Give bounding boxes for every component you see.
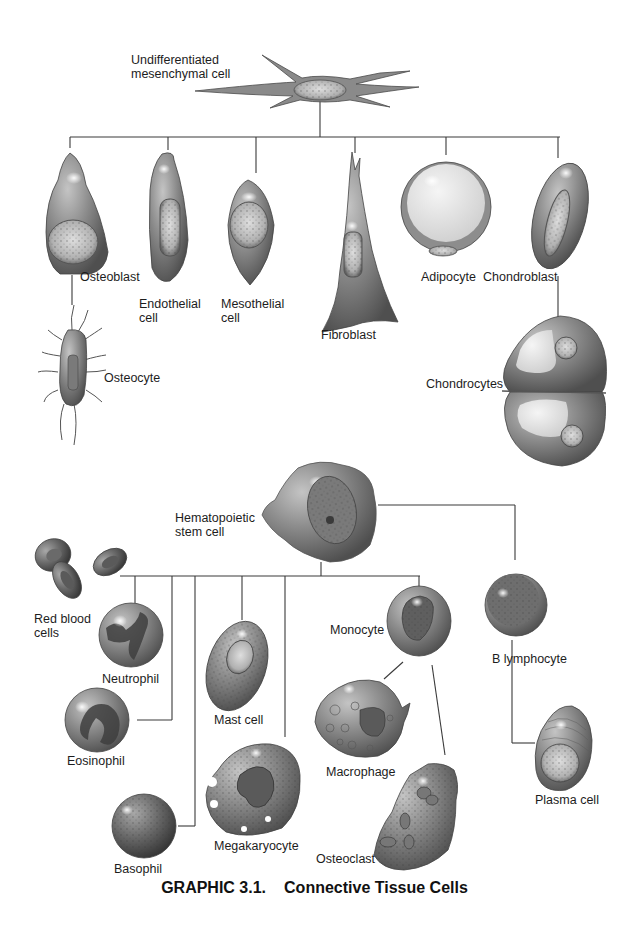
chondroblast-icon [522,157,599,274]
label-fibroblast: Fibroblast [321,328,376,342]
basophil-icon [112,794,176,858]
plasma-cell-icon [535,706,592,791]
label-macrophage: Macrophage [326,765,396,779]
caption-number: GRAPHIC 3.1. [161,879,266,896]
monocyte-icon [387,586,451,656]
b-lymphocyte-icon [485,574,547,636]
label-megakaryocyte: Megakaryocyte [214,839,299,853]
label-mesothelial-line2: cell [221,311,240,325]
label-mesothelial-line1: Mesothelial [221,297,284,311]
label-mast-cell: Mast cell [214,713,263,727]
osteocyte-icon [38,305,106,445]
label-osteoclast: Osteoclast [316,852,375,866]
mesothelial-cell-icon [228,180,274,285]
figure-caption: GRAPHIC 3.1.Connective Tissue Cells [0,879,629,897]
red-blood-cells-icon [31,534,132,604]
label-red-blood-cells: Red bloodcells [34,612,91,640]
label-mesenchymal-line2: mesenchymal cell [131,67,230,81]
label-hematopoietic-line2: stem cell [175,525,224,539]
connective-tissue-cells-diagram: Undifferentiatedmesenchymal cell Osteobl… [0,0,629,931]
label-rbc-line2: cells [34,626,59,640]
label-endothelial-cell: Endothelialcell [139,297,201,325]
osteoclast-icon [374,764,458,870]
megakaryocyte-icon [206,744,300,835]
label-osteoblast: Osteoblast [80,270,140,284]
mast-cell-icon [195,613,279,718]
label-chondrocytes: Chondrocytes [426,377,503,391]
label-basophil: Basophil [114,862,162,876]
neutrophil-icon [99,603,163,667]
label-chondroblast: Chondroblast [483,270,557,284]
label-endothelial-line1: Endothelial [139,297,201,311]
label-mesenchymal-line1: Undifferentiated [131,53,219,67]
macrophage-icon [315,680,410,757]
hematopoietic-stem-cell-icon [262,462,376,562]
eosinophil-icon [65,688,129,752]
label-hematopoietic-line1: Hematopoietic [175,511,255,525]
label-endothelial-line2: cell [139,311,158,325]
chondrocytes-icon [502,316,607,466]
osteoblast-icon [46,153,108,274]
label-mesothelial-cell: Mesothelialcell [221,297,284,325]
label-eosinophil: Eosinophil [67,754,125,768]
label-neutrophil: Neutrophil [102,672,159,686]
label-plasma-cell: Plasma cell [535,793,599,807]
adipocyte-icon [401,162,491,256]
label-mesenchymal-cell: Undifferentiatedmesenchymal cell [131,53,230,81]
label-hematopoietic-stem-cell: Hematopoieticstem cell [175,511,255,539]
label-monocyte: Monocyte [330,623,384,637]
label-rbc-line1: Red blood [34,612,91,626]
label-osteocyte: Osteocyte [104,371,160,385]
label-adipocyte: Adipocyte [421,270,476,284]
caption-title: Connective Tissue Cells [284,879,468,896]
label-b-lymphocyte: B lymphocyte [492,652,567,666]
endothelial-cell-icon [149,153,188,282]
fibroblast-icon [322,152,398,332]
